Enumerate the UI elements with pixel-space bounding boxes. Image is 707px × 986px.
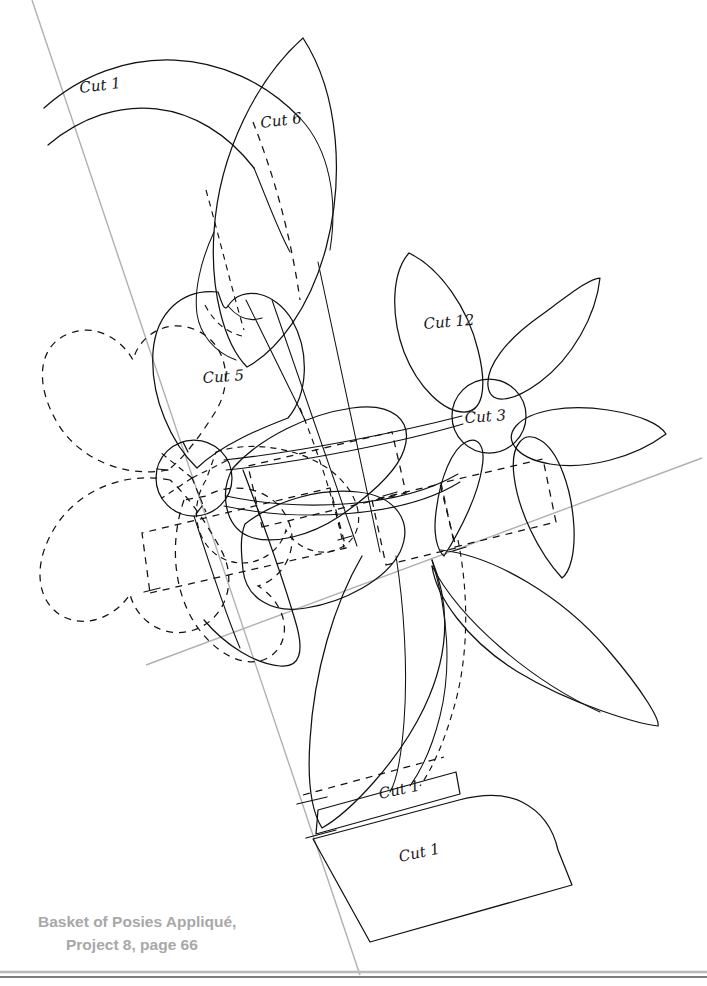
dashed-spoke-2 bbox=[192, 460, 228, 478]
piece-leaf-right-large bbox=[432, 550, 658, 726]
caption-block: Basket of Posies Appliqué, Project 8, pa… bbox=[38, 913, 236, 953]
piece-stem-band-cut1 bbox=[297, 757, 460, 838]
stem-band-outline bbox=[316, 772, 460, 834]
piece-leaf-cut6 bbox=[206, 38, 336, 367]
leaf-right-large-outline bbox=[432, 550, 658, 726]
label-cut1-top: Cut 1 bbox=[78, 74, 121, 97]
flower-petal-upper-right bbox=[488, 278, 600, 399]
center-connector-upper bbox=[224, 416, 462, 460]
stem-line-b bbox=[272, 300, 357, 546]
center-connector-lower bbox=[226, 474, 458, 505]
dashed-petal-upper-left bbox=[42, 326, 225, 472]
cut-labels: Cut 1 Cut 6 Cut 5 Cut 12 Cut 3 Cut 1 Cut… bbox=[78, 74, 506, 866]
registration-ticks bbox=[144, 492, 466, 592]
petal-cut5-notch bbox=[228, 306, 262, 320]
guide-lines bbox=[32, 0, 702, 975]
piece-basket-cut1 bbox=[313, 795, 572, 942]
stem-band-dashed-top bbox=[303, 757, 444, 795]
page-bottom-edge bbox=[0, 972, 707, 977]
label-cut1-basket: Cut 1 bbox=[397, 840, 441, 866]
posy-dashed-left bbox=[40, 326, 359, 662]
left-flower-hub bbox=[156, 440, 232, 516]
arc-band-tail bbox=[300, 118, 333, 250]
leaf-lower-left-large-outline bbox=[204, 470, 300, 666]
guide-line-diagonal-main bbox=[32, 0, 360, 975]
leaf-lower-left-large-edge bbox=[194, 516, 240, 648]
label-cut6: Cut 6 bbox=[259, 109, 303, 132]
basket-outline bbox=[313, 795, 572, 942]
label-cut12: Cut 12 bbox=[423, 311, 475, 333]
flower-petal-lower-right bbox=[513, 437, 574, 578]
leaf-right-large-edge bbox=[432, 566, 600, 712]
flower-petal-lower-left bbox=[435, 440, 483, 556]
leaf-lower-left-vein bbox=[205, 305, 242, 336]
leaf-cut6-vein bbox=[253, 122, 300, 300]
arc-band-tail-inner bbox=[254, 168, 290, 252]
leaf-cut6-vein-2 bbox=[206, 190, 244, 330]
hub-circle-left bbox=[156, 440, 232, 516]
dashed-center-spokes bbox=[160, 452, 228, 512]
center-connector-lower-2 bbox=[224, 482, 460, 515]
pattern-drawing: Cut 1 Cut 6 Cut 5 Cut 12 Cut 3 Cut 1 Cut… bbox=[0, 0, 707, 986]
hub-tick-w bbox=[157, 469, 168, 470]
caption-line-1: Basket of Posies Appliqué, bbox=[38, 913, 236, 930]
leaf-lower-center-vein-dashed bbox=[420, 540, 466, 786]
label-cut5: Cut 5 bbox=[202, 366, 245, 387]
leaf-cut6-outline bbox=[213, 38, 336, 367]
pattern-sheet: Cut 1 Cut 6 Cut 5 Cut 12 Cut 3 Cut 1 Cut… bbox=[0, 0, 707, 986]
piece-flower-right bbox=[395, 253, 666, 578]
flower-petal-right bbox=[511, 408, 666, 466]
label-cut1-stem: Cut 1 bbox=[377, 777, 421, 803]
center-petal-lower bbox=[241, 491, 404, 609]
dashed-petal-lower-center bbox=[175, 488, 292, 662]
hub-tick-marks-left bbox=[157, 442, 202, 514]
tick-d bbox=[144, 588, 160, 592]
flower-petal-upper-left bbox=[395, 253, 483, 412]
leaf-lower-center-vein bbox=[390, 556, 406, 792]
caption-line-2: Project 8, page 66 bbox=[66, 936, 198, 953]
tick-a bbox=[338, 536, 352, 540]
label-cut3: Cut 3 bbox=[464, 406, 507, 427]
dashed-spoke-4 bbox=[162, 478, 192, 498]
dashed-spoke-1 bbox=[160, 452, 192, 478]
